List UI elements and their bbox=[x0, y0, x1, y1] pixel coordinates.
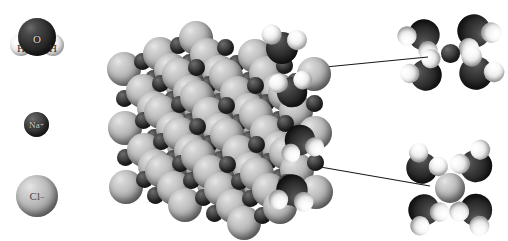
sodium-ion-center bbox=[441, 44, 460, 63]
sodium-ion-lattice bbox=[217, 39, 234, 56]
sodium-ion-lattice bbox=[188, 59, 205, 76]
sodium-chloride-crystal bbox=[0, 0, 340, 241]
chloride-ion-center bbox=[435, 173, 465, 203]
sodium-ion-lattice bbox=[189, 118, 206, 135]
sodium-ion-lattice bbox=[306, 95, 323, 112]
sodium-ion-lattice bbox=[247, 77, 264, 94]
sodium-ion-lattice bbox=[248, 136, 265, 153]
hydrated-chloride-callout bbox=[398, 140, 502, 236]
hydrated-sodium-callout bbox=[398, 8, 502, 96]
hydrogen-atom bbox=[293, 191, 314, 212]
